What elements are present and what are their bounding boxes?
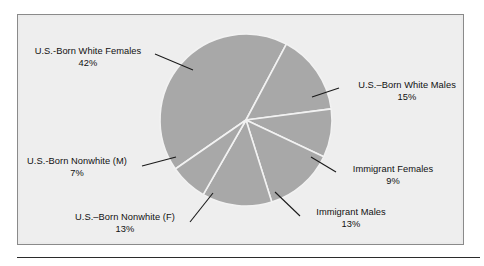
label-immigrant-females-name: Immigrant Females bbox=[341, 164, 445, 176]
label-immigrant-males-name: Immigrant Males bbox=[305, 207, 397, 219]
bottom-divider-rule bbox=[17, 257, 480, 258]
leader-nonwhite-female bbox=[190, 193, 213, 222]
label-white-males-percent: 15% bbox=[344, 92, 470, 104]
label-white-females-percent: 42% bbox=[22, 58, 154, 70]
label-white-females-name: U.S.-Born White Females bbox=[22, 46, 154, 58]
label-nonwhite-male-name: U.S.-Born Nonwhite (M) bbox=[14, 156, 140, 168]
label-nonwhite-female-name: U.S.–Born Nonwhite (F) bbox=[63, 212, 187, 224]
label-immigrant-males: Immigrant Males 13% bbox=[305, 207, 397, 230]
pie-chart-figure: U.S.-Born White Females 42% U.S.–Born Wh… bbox=[0, 0, 484, 266]
label-white-males: U.S.–Born White Males 15% bbox=[344, 80, 470, 103]
label-immigrant-females-percent: 9% bbox=[341, 176, 445, 188]
pie-slices bbox=[160, 34, 332, 206]
label-nonwhite-female-percent: 13% bbox=[63, 224, 187, 236]
label-nonwhite-male-percent: 7% bbox=[14, 168, 140, 180]
label-nonwhite-male: U.S.-Born Nonwhite (M) 7% bbox=[14, 156, 140, 179]
label-nonwhite-female: U.S.–Born Nonwhite (F) 13% bbox=[63, 212, 187, 235]
label-white-males-name: U.S.–Born White Males bbox=[344, 80, 470, 92]
label-immigrant-males-percent: 13% bbox=[305, 219, 397, 231]
label-immigrant-females: Immigrant Females 9% bbox=[341, 164, 445, 187]
label-white-females: U.S.-Born White Females 42% bbox=[22, 46, 154, 69]
